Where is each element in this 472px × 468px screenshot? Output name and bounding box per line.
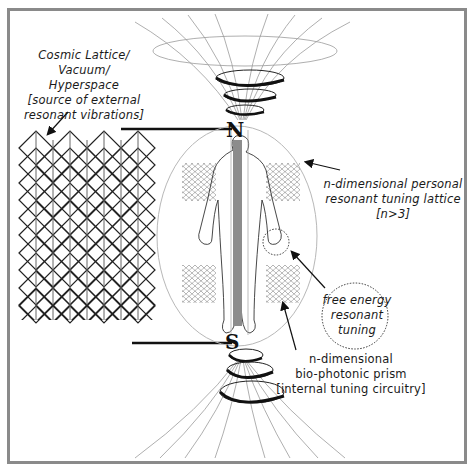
lattice-patch-bottom-left — [182, 265, 216, 303]
free-energy-label: free energy resonant tuning — [312, 293, 402, 338]
prism-arrow — [283, 303, 296, 350]
cosmic-lattice-label: Cosmic Lattice/ Vacuum/ Hyperspace [sour… — [14, 48, 154, 123]
south-pole-label: S — [225, 330, 239, 354]
hand-dotted-circle — [263, 229, 289, 255]
prism-bar — [233, 140, 242, 326]
personal-lattice-label: n-dimensional personal resonant tuning l… — [318, 177, 468, 222]
top-field-lines — [135, 14, 350, 120]
north-pole-label: N — [226, 118, 244, 142]
lattice-patch-bottom-right — [266, 265, 300, 303]
cosmic-lattice — [19, 131, 155, 340]
lattice-patch-top-left — [182, 163, 216, 201]
personal-lattice-arrow — [306, 162, 340, 170]
bio-photonic-prism-label: n-dimensional bio-photonic prism [intern… — [276, 352, 426, 397]
